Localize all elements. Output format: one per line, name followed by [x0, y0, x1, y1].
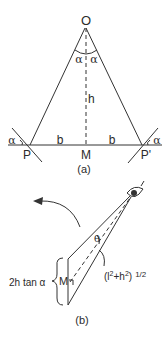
distance-close: ) [129, 271, 132, 282]
angle-label-theta: θ [94, 233, 100, 244]
point-label-p: P [23, 148, 31, 162]
height-label: h [88, 92, 95, 106]
angle-label-right-top: α [90, 53, 98, 66]
width-label: 2h tan α [9, 277, 46, 288]
angle-label-left-mirror: α [8, 134, 16, 147]
point-label-m: M [81, 148, 91, 162]
ray-top [68, 196, 130, 259]
caption-a: (a) [77, 163, 90, 175]
panel-b [33, 181, 144, 305]
half-base-label-right: b [109, 133, 116, 147]
figure: O α α h b b α α P M P' (a) [0, 0, 168, 338]
angle-arc-right [147, 140, 150, 145]
distance-mid: +h [113, 271, 124, 282]
distance-label: (l2+h2)1/2 [104, 270, 147, 282]
angle-label-left-top: α [75, 53, 83, 66]
mid-point-label-b: M [59, 275, 68, 287]
distance-leader [99, 250, 104, 266]
side-op-prime [86, 28, 142, 145]
arrow-head [33, 197, 43, 205]
caption-b: (b) [75, 314, 88, 326]
half-base-label-left: b [57, 133, 64, 147]
distance-exponent: 1/2 [135, 270, 147, 279]
panel-a [8, 28, 162, 163]
curved-arrow-icon [40, 201, 80, 227]
angle-label-right-mirror: α [153, 134, 161, 147]
point-label-p-prime: P' [141, 148, 151, 162]
eye-icon [127, 181, 144, 197]
diagram-canvas: O α α h b b α α P M P' (a) [0, 0, 168, 338]
vertex-label-o: O [81, 13, 91, 28]
angle-arc-left [20, 140, 23, 145]
side-op [30, 28, 85, 145]
